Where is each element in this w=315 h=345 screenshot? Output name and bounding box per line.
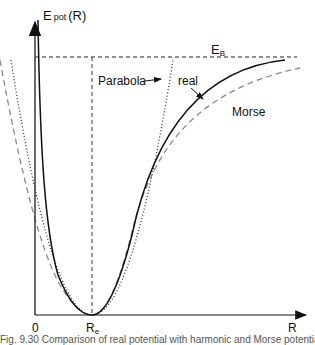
parabola-label: Parabola [98,75,146,87]
binding-energy-label: EB [211,43,225,56]
real-label: real [178,75,198,87]
binding-energy-label-sub: B [220,49,225,58]
y-axis-label-arg: (R) [68,8,86,23]
y-axis-label: Epot(R) [43,9,86,22]
x-axis-label: R [288,322,297,334]
figure-caption: Fig. 9.30 Comparison of real potential w… [0,334,315,345]
real-pointer-arrow [191,88,203,99]
real-curve [38,20,285,315]
x-tick-equilibrium: Re [86,322,99,334]
x-tick-zero: 0 [32,322,39,334]
y-axis-label-sub: pot [54,12,67,22]
morse-label: Morse [232,106,265,118]
binding-energy-label-main: E [211,42,220,57]
y-axis-label-main: E [43,8,52,23]
parabola-pointer-arrow [145,79,161,81]
x-tick-equilibrium-main: R [86,321,95,335]
